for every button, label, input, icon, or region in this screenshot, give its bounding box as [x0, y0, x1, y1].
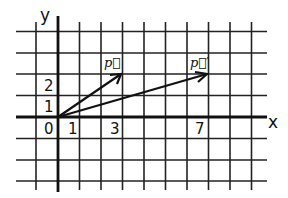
- vector-p-prime: [58, 72, 207, 117]
- y-tick-1: 1: [44, 98, 54, 116]
- y-axis-label: y: [40, 5, 50, 25]
- vector-p-label: p⃗: [104, 55, 120, 70]
- x-axis-label: x: [268, 112, 278, 132]
- grid-lines: [16, 22, 267, 190]
- vector-p-prime-label: p⃗′: [190, 55, 209, 70]
- x-tick-7: 7: [195, 120, 205, 138]
- origin-label: 0: [44, 120, 54, 138]
- y-tick-2: 2: [44, 77, 54, 95]
- x-tick-3: 3: [110, 120, 120, 138]
- x-tick-1: 1: [68, 120, 78, 138]
- coordinate-diagram: y x 0 1 3 7 1 2 p⃗ p⃗′: [0, 0, 288, 198]
